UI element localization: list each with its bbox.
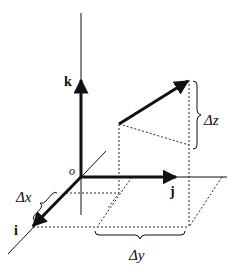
j-label: j bbox=[169, 184, 175, 199]
i-unit-vector bbox=[33, 177, 81, 226]
i-label: i bbox=[14, 223, 18, 238]
displacement-vector bbox=[119, 81, 188, 124]
plane-mid-diag bbox=[108, 193, 119, 208]
tail-horizontal-projection bbox=[119, 124, 189, 145]
dz-label: Δz bbox=[203, 112, 219, 128]
vector-diagram: k j i o Δz Δx Δy bbox=[0, 0, 237, 274]
dy-brace bbox=[95, 231, 185, 239]
dy-label: Δy bbox=[128, 247, 145, 263]
plane-right-diag bbox=[189, 177, 222, 227]
plane-left-diag bbox=[97, 177, 132, 227]
dz-brace bbox=[193, 81, 201, 149]
dx-label: Δx bbox=[15, 189, 32, 205]
origin-label: o bbox=[69, 164, 75, 178]
k-label: k bbox=[64, 74, 72, 89]
construction-lines bbox=[33, 80, 222, 227]
braces bbox=[33, 81, 201, 239]
